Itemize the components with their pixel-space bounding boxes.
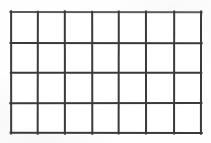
grid-cell-r3-c4[interactable]: [93, 74, 118, 102]
grid-cell-r1-c3[interactable]: [66, 13, 91, 42]
grid-cell-r1-c7[interactable]: [175, 13, 200, 42]
grid-cell-r1-c5[interactable]: [120, 13, 145, 42]
grid-cell-r3-c6[interactable]: [147, 74, 173, 102]
grid-cell-r2-c6[interactable]: [147, 44, 173, 72]
grid-cell-r1-c2[interactable]: [39, 13, 64, 42]
grid-cell-r3-c3[interactable]: [66, 74, 91, 102]
grid-cell-r4-c6[interactable]: [147, 104, 173, 132]
grid-cell-r3-c2[interactable]: [39, 74, 64, 102]
grid-canvas: [0, 0, 211, 143]
grid-cell-r2-c7[interactable]: [175, 44, 200, 72]
grid-cell-r2-c5[interactable]: [120, 44, 145, 72]
grid-cell-r4-c4[interactable]: [93, 104, 118, 132]
grid-cell-r3-c7[interactable]: [175, 74, 200, 102]
grid-cell-r1-c1[interactable]: [12, 13, 37, 42]
grid-cell-r2-c4[interactable]: [93, 44, 118, 72]
grid-cell-r4-c7[interactable]: [175, 104, 200, 132]
grid-cell-r1-c6[interactable]: [147, 13, 173, 42]
grid-cell-r4-c3[interactable]: [66, 104, 91, 132]
grid-cell-r2-c3[interactable]: [66, 44, 91, 72]
grid-cell-r3-c5[interactable]: [120, 74, 145, 102]
grid-cell-r4-c5[interactable]: [120, 104, 145, 132]
grid-cell-r4-c2[interactable]: [39, 104, 64, 132]
grid-cell-r2-c1[interactable]: [12, 44, 37, 72]
grid-cell-r2-c2[interactable]: [39, 44, 64, 72]
grid-cell-r1-c4[interactable]: [93, 13, 118, 42]
grid-cell-r4-c1[interactable]: [12, 104, 37, 132]
grid-cell-r3-c1[interactable]: [12, 74, 37, 102]
